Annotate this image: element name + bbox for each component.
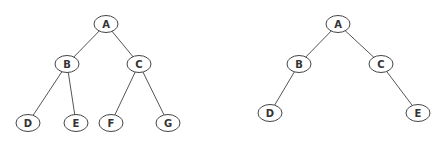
complete-binary-tree: ABCDEFG [16,16,180,132]
node-a: A [326,16,350,33]
node-label: B [63,59,71,70]
edge-c-g [139,64,168,123]
node-e: E [64,115,88,132]
node-d: D [258,105,282,122]
node-b: B [287,56,311,73]
node-d: D [16,115,40,132]
node-label: A [102,19,110,30]
node-label: E [415,108,422,119]
edge-c-f [111,64,139,123]
node-f: F [99,115,123,132]
node-label: C [135,59,142,70]
node-a: A [94,16,118,33]
node-label: B [295,59,303,70]
node-label: D [24,118,32,129]
node-c: C [369,56,393,73]
node-label: A [334,19,342,30]
node-label: G [164,118,172,129]
node-c: C [127,56,151,73]
edge-b-d [28,64,67,123]
node-label: E [73,118,80,129]
incomplete-binary-tree: ABCDE [258,16,430,122]
node-label: F [108,118,115,129]
tree-diagrams: ABCDEFG ABCDE [0,0,447,141]
node-g: G [156,115,180,132]
node-label: C [377,59,384,70]
node-label: D [266,108,274,119]
node-b: B [55,56,79,73]
node-e: E [406,105,430,122]
